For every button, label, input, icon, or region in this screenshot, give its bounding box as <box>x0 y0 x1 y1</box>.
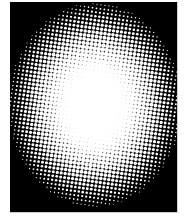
halftone-canvas <box>10 2 177 212</box>
halftone-image <box>10 2 178 213</box>
